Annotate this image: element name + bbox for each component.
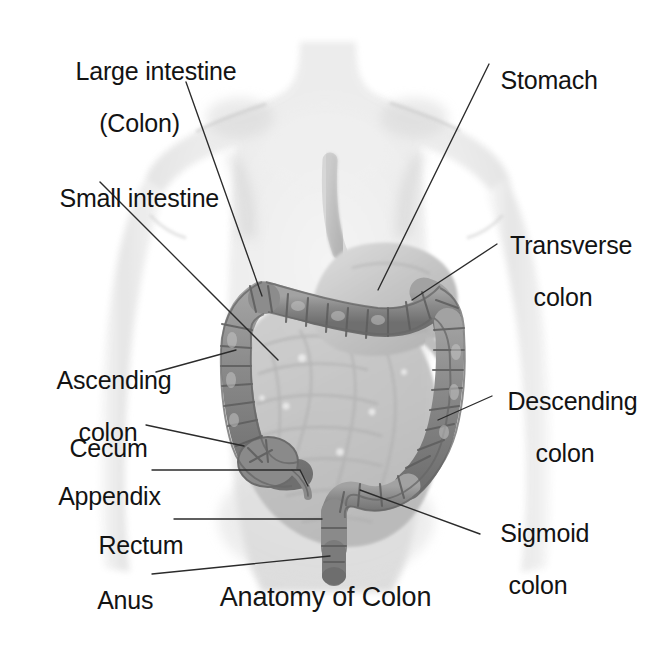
label-appendix: Appendix (46, 456, 161, 510)
label-small-intestine: Small intestine (46, 158, 219, 212)
label-descending-colon-line1: Descending (508, 387, 638, 415)
label-large-intestine-line1: Large intestine (76, 57, 237, 85)
label-large-intestine-line2: (Colon) (62, 110, 217, 136)
label-sigmoid-colon-line1: Sigmoid (500, 519, 589, 547)
label-large-intestine: Large intestine (Colon) (62, 32, 217, 162)
label-transverse-colon-line1: Transverse (510, 231, 632, 259)
label-rectum: Rectum (85, 505, 183, 559)
label-small-intestine-line1: Small intestine (60, 184, 220, 212)
label-cecum: Cecum (56, 408, 148, 462)
label-ascending-colon-line1: Ascending (57, 366, 172, 394)
label-transverse-colon: Transverse colon (497, 206, 629, 336)
label-transverse-colon-line2: colon (497, 284, 629, 310)
label-descending-colon: Descending colon (494, 362, 636, 492)
label-stomach-line1: Stomach (501, 66, 598, 94)
figure-title: Anatomy of Colon (0, 582, 651, 613)
label-descending-colon-line2: colon (494, 440, 636, 466)
label-rectum-line1: Rectum (99, 531, 184, 559)
label-stomach: Stomach (487, 40, 598, 94)
